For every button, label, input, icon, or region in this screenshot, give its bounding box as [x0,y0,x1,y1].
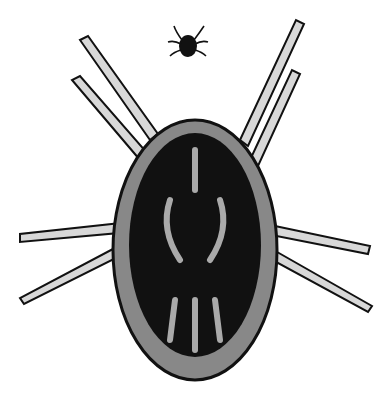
small-mite-icon [168,26,208,57]
mite-body [113,120,277,380]
mite-illustration [0,0,388,400]
